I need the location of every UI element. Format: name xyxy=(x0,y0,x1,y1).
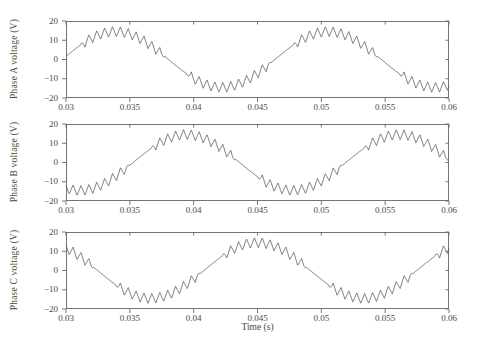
x-tick-label: 0.03 xyxy=(44,205,88,216)
plot-area-phase-c xyxy=(66,232,449,309)
x-tick-label: 0.045 xyxy=(236,102,280,113)
x-tick-label: 0.03 xyxy=(44,313,88,324)
waveform-trace-phase-c xyxy=(66,238,449,303)
y-axis-label-phase-a: Phase A voltage (V) xyxy=(9,19,19,99)
y-tick-label: 10 xyxy=(20,138,58,149)
y-tick-label: 20 xyxy=(20,16,58,27)
three-phase-voltage-figure: Phase A voltage (V) 20100−10−20 0.030.03… xyxy=(0,0,481,348)
x-tick-label: 0.035 xyxy=(108,313,152,324)
x-tick-label: 0.04 xyxy=(172,313,216,324)
y-tick-label: −10 xyxy=(20,176,58,187)
plot-border xyxy=(67,233,449,309)
x-tick-label: 0.035 xyxy=(108,102,152,113)
y-axis-label-phase-c: Phase C voltage (V) xyxy=(9,230,19,311)
y-tick-label: 0 xyxy=(20,265,58,276)
x-tick-label: 0.06 xyxy=(427,205,471,216)
axis-ticks xyxy=(62,21,449,102)
x-tick-label: 0.04 xyxy=(172,102,216,113)
y-tick-label: 0 xyxy=(20,157,58,168)
x-tick-label: 0.035 xyxy=(108,205,152,216)
x-axis-label: Time (s) xyxy=(217,322,298,332)
y-tick-label: 20 xyxy=(20,119,58,130)
x-tick-label: 0.055 xyxy=(363,102,407,113)
x-tick-label: 0.03 xyxy=(44,102,88,113)
x-tick-label: 0.045 xyxy=(236,205,280,216)
y-tick-label: 0 xyxy=(20,54,58,65)
y-tick-label: 10 xyxy=(20,35,58,46)
x-tick-label: 0.05 xyxy=(299,205,343,216)
subplot-phase-c: Phase C voltage (V) 20100−10−20 0.030.03… xyxy=(0,232,481,332)
x-tick-label: 0.05 xyxy=(299,102,343,113)
plot-border xyxy=(67,22,449,98)
plot-area-phase-b xyxy=(66,124,449,201)
x-tick-label: 0.055 xyxy=(363,313,407,324)
y-tick-label: −10 xyxy=(20,284,58,295)
x-tick-label: 0.055 xyxy=(363,205,407,216)
x-tick-label: 0.05 xyxy=(299,313,343,324)
waveform-trace-phase-a xyxy=(66,27,449,93)
subplot-phase-b: Phase B voltage (V) 20100−10−20 0.030.03… xyxy=(0,124,481,224)
y-axis-label-phase-b: Phase B voltage (V) xyxy=(9,122,19,203)
y-tick-label: 20 xyxy=(20,227,58,238)
plot-border xyxy=(67,125,449,201)
y-tick-label: 10 xyxy=(20,246,58,257)
x-tick-label: 0.06 xyxy=(427,313,471,324)
x-tick-label: 0.04 xyxy=(172,205,216,216)
y-tick-label: −10 xyxy=(20,73,58,84)
waveform-trace-phase-b xyxy=(66,130,449,195)
x-tick-label: 0.06 xyxy=(427,102,471,113)
axis-ticks xyxy=(62,232,449,313)
plot-area-phase-a xyxy=(66,21,449,98)
subplot-phase-a: Phase A voltage (V) 20100−10−20 0.030.03… xyxy=(0,21,481,121)
